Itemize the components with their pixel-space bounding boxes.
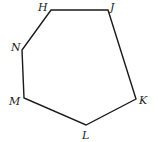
vertex-label-n: N [10, 41, 21, 54]
vertex-label-m: M [8, 95, 21, 108]
hexagon-outline [22, 10, 136, 125]
vertex-label-j: J [108, 1, 115, 14]
polygon-diagram: H J K L M N [0, 0, 158, 142]
vertex-label-l: L [81, 129, 89, 142]
vertex-label-k: K [138, 94, 148, 107]
vertex-label-h: H [37, 1, 48, 14]
